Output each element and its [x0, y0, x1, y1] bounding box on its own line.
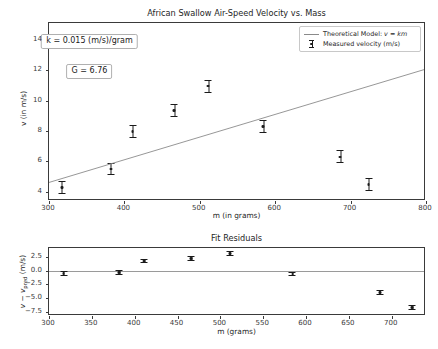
y-tick-label: 10	[2, 96, 42, 104]
legend-item-theoretical-model: Theoretical Model: v = km	[303, 29, 416, 39]
y-tick-label: 0.0	[2, 266, 42, 274]
data-point-marker	[411, 306, 414, 309]
x-tick-label: 700	[384, 319, 397, 327]
annotation-k-value: k = 0.015 (m/s)/gram	[41, 34, 138, 49]
residuals-axes	[48, 247, 425, 315]
residuals-xaxis-label: m (grams)	[48, 327, 425, 336]
data-point-marker	[143, 260, 146, 263]
x-tick-label: 650	[341, 319, 354, 327]
main-chart-title: African Swallow Air-Speed Velocity vs. M…	[48, 8, 425, 18]
x-tick-label: 800	[418, 204, 431, 212]
data-point-marker	[378, 291, 381, 294]
x-tick-label: 500	[192, 204, 205, 212]
x-tick-label: 300	[41, 319, 54, 327]
y-tick-label: 2.5	[2, 252, 42, 260]
data-point-marker	[190, 257, 193, 260]
y-tick	[46, 284, 49, 285]
y-tick	[46, 257, 49, 258]
data-point-errorbar	[226, 251, 233, 256]
y-tick	[46, 298, 49, 299]
x-tick-label: 400	[117, 204, 130, 212]
x-tick-label: 600	[268, 204, 281, 212]
y-tick-label: −2.5	[2, 279, 42, 287]
x-tick-label: 400	[127, 319, 140, 327]
y-tick-label: 8	[2, 126, 42, 134]
data-point-marker	[228, 252, 231, 255]
data-point-marker	[118, 271, 121, 274]
residuals-chart-title: Fit Residuals	[48, 233, 425, 243]
data-point-errorbar	[116, 270, 123, 275]
data-point-errorbar	[289, 272, 296, 277]
line-swatch-icon	[303, 29, 320, 39]
y-tick-label: 4	[2, 187, 42, 195]
x-tick-label: 300	[41, 204, 54, 212]
x-tick-label: 350	[84, 319, 97, 327]
data-point-marker	[62, 272, 65, 275]
errorbar-swatch-icon	[303, 39, 320, 49]
main-yaxis-label: v (in m/s)	[19, 64, 28, 154]
data-point-errorbar	[376, 290, 383, 295]
y-tick-label: −5.0	[2, 293, 42, 301]
y-tick	[46, 312, 49, 313]
x-tick-label: 550	[256, 319, 269, 327]
figure-canvas: African Swallow Air-Speed Velocity vs. M…	[0, 0, 438, 349]
residuals-plot-surface	[49, 248, 424, 314]
data-point-errorbar	[60, 271, 67, 276]
x-tick-label: 500	[213, 319, 226, 327]
data-point-marker	[291, 273, 294, 276]
x-tick-label: 700	[343, 204, 356, 212]
data-point-errorbar	[141, 259, 148, 264]
y-tick-label: 6	[2, 156, 42, 164]
main-xaxis-label: m (in grams)	[48, 211, 425, 220]
x-tick-label: 450	[170, 319, 183, 327]
legend-item-measured-velocity: Measured velocity (m/s)	[303, 39, 416, 49]
zero-reference-line	[49, 271, 424, 272]
data-point-errorbar	[409, 305, 416, 310]
legend-label-theoretical-model: Theoretical Model: v = km	[323, 30, 407, 38]
y-tick-label: 14	[2, 35, 42, 43]
annotation-g-value: G = 6.76	[67, 64, 113, 79]
data-point-errorbar	[188, 256, 195, 261]
main-legend: Theoretical Model: v = km Measured veloc…	[299, 26, 421, 52]
x-tick-label: 600	[298, 319, 311, 327]
y-tick-label: 12	[2, 65, 42, 73]
y-tick-label: −7.5	[2, 307, 42, 315]
legend-label-measured-velocity: Measured velocity (m/s)	[323, 40, 400, 48]
